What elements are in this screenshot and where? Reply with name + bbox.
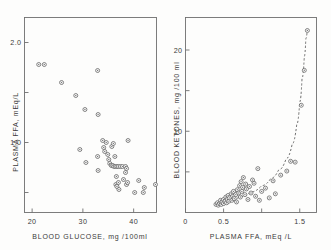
data-point xyxy=(83,108,87,112)
data-point xyxy=(96,113,100,117)
data-point xyxy=(114,175,118,179)
data-point xyxy=(235,200,239,204)
right-panel: 00.51.5 1020 PLASMA FFA, mEq /L BLOOD KE… xyxy=(173,18,317,242)
data-point xyxy=(116,181,120,185)
data-point xyxy=(256,167,260,171)
data-point xyxy=(238,195,242,199)
data-point xyxy=(252,181,256,185)
data-point xyxy=(279,173,283,177)
left-panel: 203040 1.02.0 BLOOD GLUCOSE, mg /100ml P… xyxy=(10,18,157,242)
data-point xyxy=(106,153,110,157)
data-point xyxy=(305,29,309,33)
y-tick-label: 20 xyxy=(174,46,183,55)
data-point xyxy=(117,188,121,192)
data-point xyxy=(96,155,100,159)
figure-container: 203040 1.02.0 BLOOD GLUCOSE, mg /100ml P… xyxy=(0,0,331,250)
data-point xyxy=(107,158,111,162)
data-point xyxy=(37,63,41,67)
left-y-axis-ticks xyxy=(25,43,29,193)
data-point xyxy=(240,189,244,193)
data-point xyxy=(273,192,277,196)
left-x-axis-ticks xyxy=(32,209,134,213)
left-y-axis-title: PLASMA FFA, mEq/L xyxy=(12,92,20,172)
data-point xyxy=(271,179,275,183)
x-tick-label: 20 xyxy=(28,217,37,226)
data-point xyxy=(60,81,64,85)
data-point xyxy=(126,181,130,185)
right-y-axis-title: BLOOD KETONES, mg /100 ml xyxy=(173,61,181,178)
data-point xyxy=(239,180,243,184)
data-point xyxy=(102,146,106,150)
x-tick-label: 30 xyxy=(78,217,87,226)
data-point xyxy=(42,63,46,67)
scatter-plot-figure: 203040 1.02.0 BLOOD GLUCOSE, mg /100ml P… xyxy=(0,0,331,250)
data-point xyxy=(96,169,100,173)
data-point xyxy=(153,183,157,187)
data-point xyxy=(113,155,117,159)
x-tick-label: 1.5 xyxy=(294,217,305,226)
data-point xyxy=(241,176,245,180)
data-point xyxy=(133,191,137,195)
right-plot-frame xyxy=(186,18,317,213)
left-x-axis-title: BLOOD GLUCOSE, mg /100ml xyxy=(32,233,147,241)
x-tick-label: 0 xyxy=(183,217,187,226)
data-point xyxy=(84,161,88,165)
data-point xyxy=(104,141,108,145)
data-point xyxy=(260,189,264,193)
data-point xyxy=(126,139,130,143)
right-x-tick-labels: 00.51.5 xyxy=(183,217,305,226)
data-point xyxy=(263,186,267,190)
data-point xyxy=(244,182,248,186)
data-point xyxy=(289,159,293,163)
data-point xyxy=(249,191,253,195)
data-point xyxy=(257,198,261,202)
data-point xyxy=(74,94,78,98)
data-point xyxy=(241,185,245,189)
data-point xyxy=(293,160,297,164)
data-point xyxy=(124,171,128,175)
left-data-points xyxy=(37,63,158,195)
y-tick-label: 2.0 xyxy=(10,38,21,47)
data-point xyxy=(302,68,306,72)
data-point xyxy=(243,193,247,197)
right-fit-curve xyxy=(217,29,307,205)
data-point xyxy=(247,185,251,189)
data-point xyxy=(246,198,250,202)
data-point xyxy=(142,186,146,190)
right-x-axis-title: PLASMA FFA, mEq /L xyxy=(210,233,292,241)
data-point xyxy=(285,169,289,173)
data-point xyxy=(141,191,145,195)
data-point xyxy=(137,179,141,183)
right-data-points xyxy=(214,29,309,208)
x-tick-label: 0.5 xyxy=(218,217,229,226)
data-point xyxy=(122,178,126,182)
left-x-tick-labels: 203040 xyxy=(28,217,138,226)
data-point xyxy=(78,148,82,152)
x-tick-label: 40 xyxy=(129,217,138,226)
left-plot-frame xyxy=(25,18,157,213)
data-point xyxy=(125,167,129,171)
data-point xyxy=(267,196,271,200)
data-point xyxy=(254,194,258,198)
right-x-axis-ticks xyxy=(186,209,300,213)
data-point xyxy=(111,142,115,146)
data-point xyxy=(96,69,100,73)
right-y-axis-ticks xyxy=(186,50,190,172)
data-point xyxy=(299,103,303,107)
